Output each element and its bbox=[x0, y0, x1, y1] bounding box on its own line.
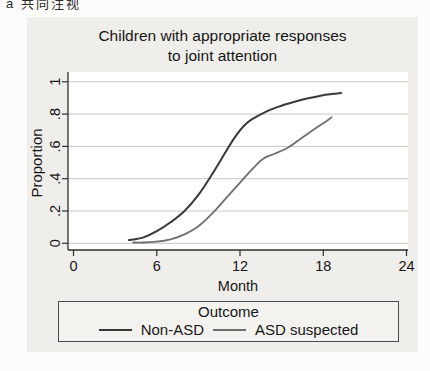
legend: Outcome Non-ASD ASD suspected bbox=[58, 301, 399, 342]
legend-title: Outcome bbox=[59, 304, 398, 320]
x-axis-label: Month bbox=[68, 278, 408, 294]
legend-label-non-asd: Non-ASD bbox=[141, 321, 204, 338]
y-tick-label: .8 bbox=[47, 108, 63, 120]
y-tick-label: .6 bbox=[47, 140, 63, 152]
y-tick-label: .2 bbox=[47, 205, 63, 217]
y-tick-label: .4 bbox=[47, 173, 63, 185]
legend-line-asd-suspected bbox=[213, 329, 246, 331]
plot-background bbox=[68, 72, 408, 250]
x-tick-label: 18 bbox=[315, 258, 331, 274]
x-tick-label: 24 bbox=[398, 258, 414, 274]
x-tick-label: 6 bbox=[153, 258, 161, 274]
legend-line-non-asd bbox=[99, 329, 132, 331]
panel-label: a 共同注视 bbox=[6, 0, 81, 12]
y-axis-label: Proportion bbox=[29, 103, 45, 223]
y-tick-label: 1 bbox=[47, 78, 63, 86]
y-tick-label: 0 bbox=[47, 239, 63, 247]
legend-entries: Non-ASD ASD suspected bbox=[59, 320, 398, 339]
chart-figure: Children with appropriate responses to j… bbox=[27, 17, 418, 352]
x-tick-label: 12 bbox=[232, 258, 248, 274]
legend-label-asd-suspected: ASD suspected bbox=[255, 321, 358, 338]
x-tick-label: 0 bbox=[69, 258, 77, 274]
